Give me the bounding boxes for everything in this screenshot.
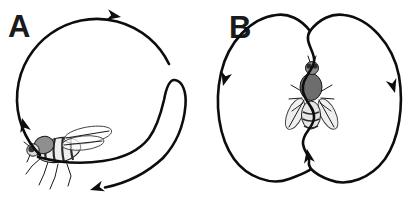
panel-b: B	[218, 10, 401, 182]
fly-a-proboscis	[27, 155, 30, 162]
panel-a: A	[8, 9, 186, 195]
fly-b-antenna	[308, 56, 310, 62]
arrowhead-a-bottom-left	[88, 181, 105, 196]
figure-canvas: A	[0, 0, 411, 201]
fly-a-antenna	[24, 142, 29, 146]
flight-path-a-hook	[38, 80, 186, 188]
arrowhead-b-right-down	[386, 78, 400, 94]
fly-a-leg	[50, 164, 58, 189]
fly-a-leg	[39, 162, 48, 185]
fly-a-leg	[26, 158, 41, 174]
panel-a-label: A	[8, 9, 30, 44]
fly-a-leg	[67, 164, 71, 186]
